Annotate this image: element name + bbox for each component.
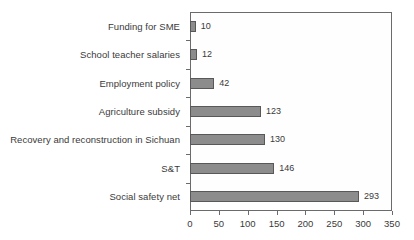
category-label: Recovery and reconstruction in Sichuan bbox=[0, 134, 180, 145]
bar bbox=[190, 21, 196, 32]
y-axis-tick bbox=[186, 97, 190, 98]
bar-value-label: 293 bbox=[364, 191, 379, 202]
x-axis-tick bbox=[248, 211, 249, 215]
x-axis-tick-label: 100 bbox=[233, 218, 263, 229]
plot-area: 101242123130146293 bbox=[190, 12, 392, 211]
bar-value-label: 10 bbox=[201, 21, 211, 32]
x-axis-tick bbox=[219, 211, 220, 215]
bar-value-label: 123 bbox=[266, 106, 281, 117]
x-axis-tick-label: 50 bbox=[204, 218, 234, 229]
y-axis-tick bbox=[186, 154, 190, 155]
bar bbox=[190, 163, 274, 174]
x-axis-tick bbox=[190, 211, 191, 215]
x-axis-tick-label: 200 bbox=[290, 218, 320, 229]
x-axis-tick-label: 300 bbox=[348, 218, 378, 229]
x-axis-tick-label: 0 bbox=[175, 218, 205, 229]
bar-value-label: 146 bbox=[279, 163, 294, 174]
x-axis-tick bbox=[277, 211, 278, 215]
y-axis-tick bbox=[186, 69, 190, 70]
category-label: Social safety net bbox=[0, 191, 180, 202]
bar bbox=[190, 191, 359, 202]
y-axis-tick bbox=[186, 40, 190, 41]
category-label: S&T bbox=[0, 163, 180, 174]
category-label: Employment policy bbox=[0, 78, 180, 89]
y-axis-tick bbox=[186, 183, 190, 184]
bar bbox=[190, 49, 197, 60]
category-label: Funding for SME bbox=[0, 21, 180, 32]
category-label: School teacher salaries bbox=[0, 49, 180, 60]
category-axis-labels: Funding for SMESchool teacher salariesEm… bbox=[0, 12, 185, 211]
bar bbox=[190, 106, 261, 117]
bar-value-label: 130 bbox=[270, 134, 285, 145]
y-axis-tick bbox=[186, 126, 190, 127]
bar-value-label: 12 bbox=[202, 49, 212, 60]
x-axis-tick bbox=[334, 211, 335, 215]
x-axis-tick-label: 250 bbox=[319, 218, 349, 229]
bar bbox=[190, 134, 265, 145]
x-axis-tick bbox=[305, 211, 306, 215]
category-label: Agriculture subsidy bbox=[0, 106, 180, 117]
x-axis-tick-label: 350 bbox=[377, 218, 407, 229]
bar-chart: Funding for SMESchool teacher salariesEm… bbox=[0, 0, 414, 240]
bar-value-label: 42 bbox=[219, 78, 229, 89]
x-axis-tick bbox=[392, 211, 393, 215]
bar bbox=[190, 78, 214, 89]
x-axis-tick-label: 150 bbox=[262, 218, 292, 229]
x-axis-tick bbox=[363, 211, 364, 215]
